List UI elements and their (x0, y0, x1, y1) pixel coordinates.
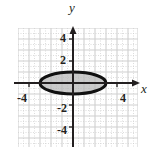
y-axis-label: y (69, 1, 75, 14)
y-tick-label-negative-4: -4 (57, 124, 67, 136)
x-tick-label-negative-4: -4 (17, 92, 27, 104)
x-axis-label: x (141, 82, 147, 95)
y-tick-label-2: 2 (60, 54, 66, 66)
graph-figure: y x 4 2 -2 -4 -4 4 (0, 0, 154, 147)
coordinate-plane-svg (0, 0, 154, 147)
x-tick-label-4: 4 (120, 92, 126, 104)
y-tick-label-4: 4 (60, 32, 66, 44)
y-tick-label-negative-2: -2 (57, 102, 67, 114)
